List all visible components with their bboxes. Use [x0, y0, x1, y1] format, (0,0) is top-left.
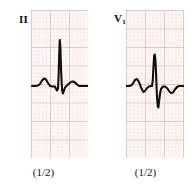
lead-label-v1: V1 [114, 13, 126, 24]
lead-label-v1-text: V [114, 12, 122, 24]
lead-label-ii-text: II [19, 13, 28, 25]
ecg-waveform-v1 [126, 55, 184, 108]
ecg-waveform-ii [32, 40, 88, 94]
ecg-strip-ii [31, 10, 88, 158]
ecg-trace-ii [31, 10, 88, 158]
ecg-trace-v1 [126, 10, 184, 158]
ecg-figure: II (1/2) [0, 0, 195, 193]
caption-lead-ii: (1/2) [0, 167, 92, 178]
lead-label-ii: II [19, 14, 28, 25]
ecg-strip-v1 [126, 10, 184, 158]
caption-lead-v1: (1/2) [97, 167, 194, 178]
ecg-panel-lead-v1: V1 (1/2) [96, 0, 193, 193]
ecg-panel-lead-ii: II (1/2) [0, 0, 97, 193]
